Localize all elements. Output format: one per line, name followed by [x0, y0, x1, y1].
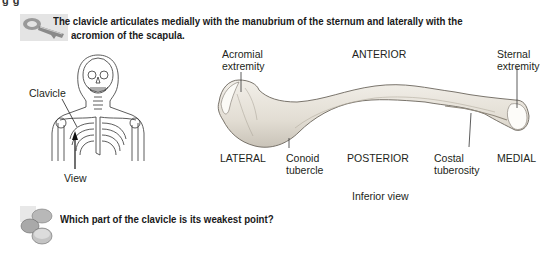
- anterior-label: ANTERIOR: [352, 48, 406, 60]
- posterior-label: POSTERIOR: [347, 152, 409, 164]
- conoid-tubercle-label: Conoid tubercle: [286, 152, 323, 176]
- figure-caption: Inferior view: [352, 190, 409, 202]
- medial-label: MEDIAL: [497, 152, 536, 164]
- acromial-extremity-label: Acromial extremity: [222, 48, 265, 72]
- question-blocks-icon: [20, 206, 56, 246]
- costal-tuberosity-label: Costal tuberosity: [434, 152, 480, 176]
- lateral-label: LATERAL: [220, 152, 266, 164]
- sternal-extremity-label: Sternal extremity: [497, 48, 540, 72]
- question-text: Which part of the clavicle is its weakes…: [60, 213, 274, 225]
